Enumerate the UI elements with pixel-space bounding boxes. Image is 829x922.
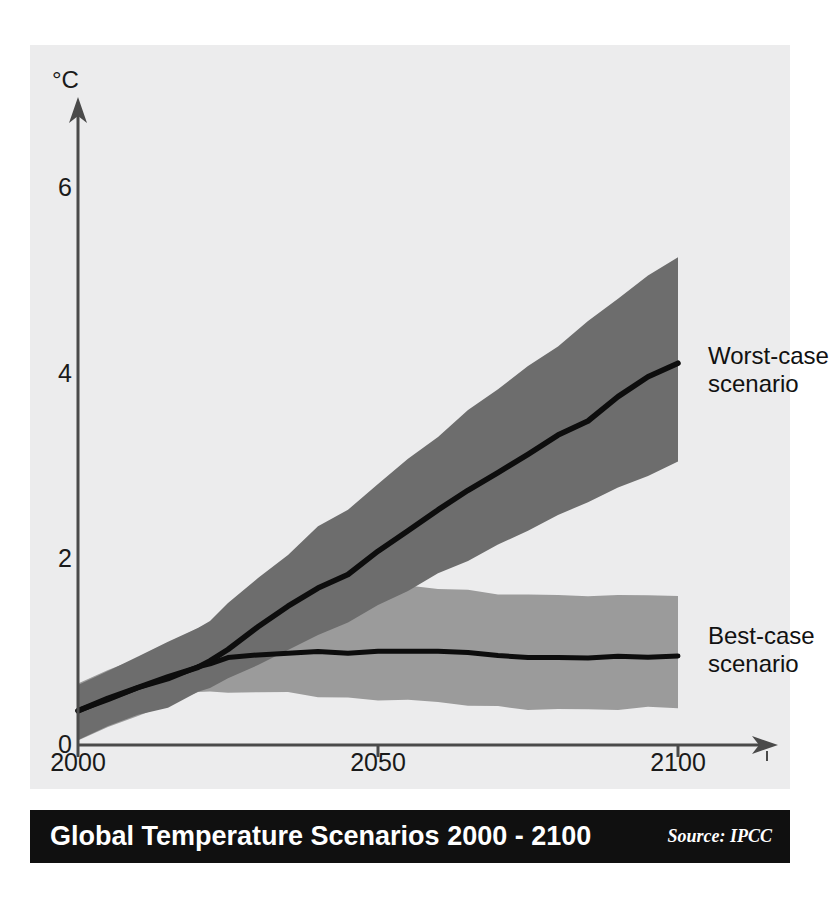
x-axis-tick-label: 2050 <box>350 750 406 775</box>
worst-case-annotation: Worst-case scenario <box>708 342 829 397</box>
y-axis-tick-label: 6 <box>44 175 72 200</box>
x-axis-tick-label: 2000 <box>50 750 106 775</box>
y-axis-unit-label: °C <box>52 68 79 92</box>
chart-title: Global Temperature Scenarios 2000 - 2100 <box>50 821 591 852</box>
y-axis-tick-labels: 0246 <box>30 45 72 789</box>
plot-panel <box>30 45 790 789</box>
best-case-annotation: Best-case scenario <box>708 622 815 677</box>
chart-title-bar: Global Temperature Scenarios 2000 - 2100… <box>30 810 790 863</box>
x-axis-tick-label: 2100 <box>650 750 706 775</box>
x-axis-tick-labels: 200020502100 <box>30 750 790 790</box>
source-credit: Source: IPCC <box>667 826 772 847</box>
y-axis-tick-label: 2 <box>44 546 72 571</box>
y-axis-tick-label: 4 <box>44 361 72 386</box>
temperature-scenarios-plot <box>30 45 790 789</box>
